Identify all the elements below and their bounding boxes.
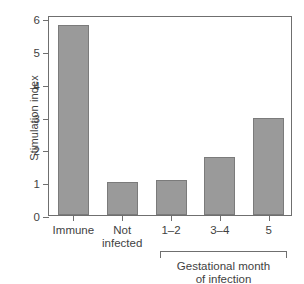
y-axis-tick-label: 5 (34, 47, 40, 59)
y-axis-tick (43, 53, 49, 54)
y-axis-tick (43, 20, 49, 21)
bar-chart-figure: Stimulation index 0123456ImmuneNot infec… (0, 0, 304, 284)
x-axis-tick (171, 215, 172, 221)
y-axis-tick-label: 2 (34, 145, 40, 157)
x-axis-tick-label: 3–4 (210, 224, 229, 237)
y-axis-tick-label: 1 (34, 178, 40, 190)
y-axis-tick (43, 151, 49, 152)
x-axis-tick-label: 5 (265, 224, 271, 237)
bar (156, 180, 187, 215)
y-axis-tick (43, 86, 49, 87)
bar (204, 157, 235, 215)
plot-area: 0123456ImmuneNot infected1–23–45 (48, 16, 292, 216)
x-axis-tick (269, 215, 270, 221)
x-axis-tick-label: Immune (53, 224, 95, 237)
y-axis-tick (43, 184, 49, 185)
x-axis-tick (73, 215, 74, 221)
plot-inner: 0123456ImmuneNot infected1–23–45 (49, 17, 291, 215)
x-axis-tick-label: 1–2 (161, 224, 180, 237)
x-axis-tick (220, 215, 221, 221)
bar (58, 25, 89, 215)
gestational-group-bracket (160, 251, 287, 258)
x-axis-tick-label: Not infected (102, 224, 142, 250)
y-axis-tick (43, 119, 49, 120)
y-axis-tick-label: 3 (34, 113, 40, 125)
gestational-group-label: Gestational monthof infection (160, 260, 287, 284)
y-axis-tick-label: 6 (34, 14, 40, 26)
y-axis-tick (43, 217, 49, 218)
bar (107, 182, 138, 215)
group-label-line1: Gestational month (177, 260, 270, 272)
y-axis-tick-label: 0 (34, 211, 40, 223)
y-axis-tick-label: 4 (34, 80, 40, 92)
x-axis-tick (122, 215, 123, 221)
bar (253, 118, 284, 215)
group-label-line2: of infection (196, 273, 252, 284)
